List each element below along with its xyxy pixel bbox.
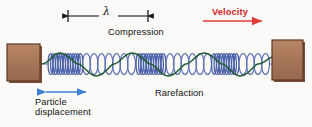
wall-block-right [272, 40, 305, 82]
wall-block-left [7, 44, 42, 83]
velocity-label: Velocity [212, 7, 248, 17]
particle-displacement-label: Particledisplacement [35, 97, 91, 118]
particle-displacement-line2: displacement [35, 107, 91, 117]
longitudinal-wave-figure: λ Compression Rarefaction Velocity Parti… [0, 0, 312, 127]
spring-coil [41, 54, 272, 75]
wavelength-label: λ [103, 6, 110, 18]
compression-label: Compression [108, 27, 164, 37]
particle-displacement-line1: Particle [35, 97, 67, 107]
rarefaction-label: Rarefaction [155, 88, 204, 98]
